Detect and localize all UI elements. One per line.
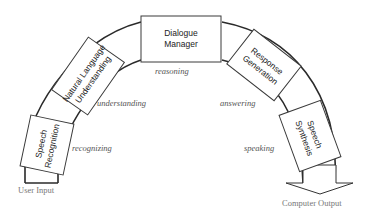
module-speech-recognition: Speech Recognition xyxy=(20,115,74,175)
stage-speaking: speaking xyxy=(244,143,274,153)
stage-recognizing: recognizing xyxy=(72,143,112,153)
module-dialogue-manager: Dialogue Manager xyxy=(141,16,221,62)
module-response-generation: Response Generation xyxy=(227,29,301,101)
stage-understanding: understanding xyxy=(97,98,146,108)
stage-reasoning: reasoning xyxy=(155,66,189,76)
computer-output-label: Computer Output xyxy=(282,198,342,208)
dialogue-manager-line1: Dialogue xyxy=(164,28,198,38)
dialogue-system-diagram: Speech Recognition Natural Language Unde… xyxy=(0,0,375,218)
stage-answering: answering xyxy=(220,98,255,108)
output-arrow-icon xyxy=(286,165,353,194)
user-input-label: User Input xyxy=(18,185,55,195)
dialogue-manager-line2: Manager xyxy=(164,39,198,49)
